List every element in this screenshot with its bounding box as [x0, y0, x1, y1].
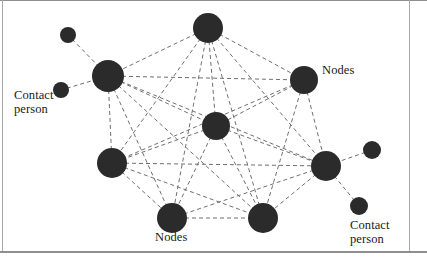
- graph-node[interactable]: [97, 148, 127, 178]
- label-nodes-bottom: Nodes: [155, 230, 187, 244]
- contact-person-node[interactable]: [363, 141, 381, 159]
- graph-edge: [216, 38, 317, 156]
- graph-edge: [118, 85, 253, 209]
- graph-edge: [109, 90, 112, 150]
- graph-edge: [124, 130, 204, 159]
- graph-node[interactable]: [290, 66, 318, 94]
- label-nodes-right: Nodes: [322, 63, 354, 77]
- graph-edge: [227, 130, 314, 161]
- graph-node[interactable]: [92, 60, 124, 92]
- graph-edge: [121, 82, 205, 121]
- graph-edge: [72, 39, 98, 66]
- label-contact-right-line1: Contact: [350, 218, 390, 232]
- label-nodes-right-line1: Nodes: [322, 63, 354, 77]
- label-contact-right-line2: person: [350, 232, 390, 246]
- contact-person-node[interactable]: [60, 27, 76, 43]
- node-layer: [53, 13, 381, 233]
- graph-edge: [178, 137, 211, 206]
- graph-edge: [307, 92, 323, 154]
- graph-edge: [334, 176, 354, 201]
- graph-edge: [114, 89, 167, 206]
- graph-edge: [121, 34, 197, 70]
- graph-edge: [122, 172, 163, 209]
- contact-person-node[interactable]: [53, 82, 69, 98]
- label-contact-right: Contactperson: [350, 218, 390, 246]
- graph-node[interactable]: [193, 13, 223, 43]
- network-diagram-figure: ContactpersonNodesNodesContactperson: [0, 0, 427, 260]
- graph-edge: [67, 80, 95, 88]
- graph-edge: [174, 41, 205, 205]
- graph-edge: [209, 41, 215, 114]
- label-nodes-bottom-line1: Nodes: [155, 230, 187, 244]
- graph-edge: [227, 86, 294, 121]
- label-contact-left: Contactperson: [14, 88, 54, 116]
- graph-edge: [267, 92, 301, 206]
- graph-node[interactable]: [157, 203, 187, 233]
- graph-edge: [273, 174, 316, 209]
- graph-node[interactable]: [202, 112, 230, 140]
- label-contact-left-line1: Contact: [14, 88, 54, 102]
- label-contact-left-line2: person: [14, 102, 54, 116]
- graph-edge: [125, 163, 313, 166]
- graph-node[interactable]: [248, 203, 278, 233]
- contact-person-node[interactable]: [350, 197, 368, 215]
- graph-edge: [124, 167, 251, 213]
- graph-edge: [338, 152, 365, 161]
- graph-node[interactable]: [311, 151, 341, 181]
- graph-edge: [122, 76, 292, 79]
